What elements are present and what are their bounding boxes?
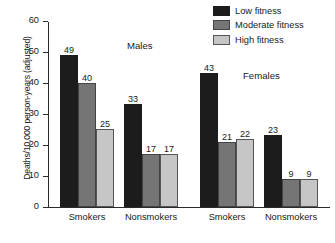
bar: 43 <box>200 73 218 206</box>
plot-area: 0102030405060 4940253317174321222399 <box>48 22 330 208</box>
legend-label: Low fitness <box>235 6 282 16</box>
legend-label: High fitness <box>235 35 284 45</box>
y-tick-40: 40 <box>43 83 48 84</box>
y-tick-label: 60 <box>29 15 39 25</box>
x-axis-label-2: Smokers <box>209 212 246 222</box>
y-tick-label: 10 <box>29 170 39 180</box>
chart-legend: Low fitnessModerate fitnessHigh fitness <box>213 4 304 48</box>
y-tick-label: 30 <box>29 108 39 118</box>
y-tick-label: 0 <box>34 201 39 211</box>
bar-value-label: 9 <box>288 169 293 179</box>
y-axis-line <box>48 22 49 208</box>
bar: 40 <box>78 83 96 207</box>
bar-value-label: 21 <box>222 132 232 142</box>
bar: 25 <box>96 129 114 207</box>
bar-value-label: 33 <box>128 94 138 104</box>
y-tick-0: 0 <box>43 207 48 208</box>
x-axis-line <box>48 207 330 208</box>
bar: 23 <box>264 135 282 206</box>
bar: 17 <box>142 154 160 207</box>
bar: 21 <box>218 142 236 207</box>
y-tick-label: 50 <box>29 46 39 56</box>
y-tick-20: 20 <box>43 145 48 146</box>
legend-label: Moderate fitness <box>235 20 304 30</box>
legend-swatch-icon <box>213 20 230 30</box>
bar: 17 <box>160 154 178 207</box>
bar: 49 <box>60 55 78 207</box>
y-tick-label: 20 <box>29 139 39 149</box>
bar-chart-figure: Deaths/10,000 person-years (adjusted) 01… <box>0 0 335 243</box>
bar-value-label: 9 <box>306 169 311 179</box>
bar-value-label: 25 <box>100 119 110 129</box>
bar: 33 <box>124 104 142 206</box>
panel-label-males: Males <box>127 40 153 51</box>
bar: 9 <box>282 179 300 207</box>
bar-value-label: 17 <box>146 144 156 154</box>
y-tick-30: 30 <box>43 114 48 115</box>
legend-swatch-icon <box>213 35 230 45</box>
bar-value-label: 22 <box>240 129 250 139</box>
legend-item[interactable]: Low fitness <box>213 4 304 17</box>
panel-label-females: Females <box>243 70 280 81</box>
y-tick-60: 60 <box>43 21 48 22</box>
y-tick-label: 40 <box>29 77 39 87</box>
bar: 9 <box>300 179 318 207</box>
bar: 22 <box>236 139 254 207</box>
bar-value-label: 23 <box>268 125 278 135</box>
bar-value-label: 17 <box>164 144 174 154</box>
x-axis-label-0: Smokers <box>69 212 106 222</box>
bar-value-label: 40 <box>82 73 92 83</box>
bar-group: 432122 <box>200 21 254 207</box>
bar-group: 494025 <box>60 21 114 207</box>
bar-value-label: 43 <box>204 63 214 73</box>
y-tick-10: 10 <box>43 176 48 177</box>
bar-value-label: 49 <box>64 45 74 55</box>
x-axis-label-3: Nonsmokers <box>265 212 317 222</box>
legend-item[interactable]: High fitness <box>213 33 304 46</box>
bar-group: 2399 <box>264 21 318 207</box>
legend-item[interactable]: Moderate fitness <box>213 19 304 32</box>
x-axis-label-1: Nonsmokers <box>125 212 177 222</box>
legend-swatch-icon <box>213 6 230 16</box>
y-tick-50: 50 <box>43 52 48 53</box>
